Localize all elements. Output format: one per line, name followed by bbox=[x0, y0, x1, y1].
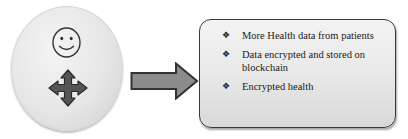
list-item: ❖ Data encrypted and stored on blockchai… bbox=[222, 48, 387, 74]
list-item: ❖ More Health data from patients bbox=[222, 29, 387, 42]
diamond-bullet-icon: ❖ bbox=[222, 29, 242, 42]
bullet-text: Encrypted health bbox=[242, 80, 387, 93]
bullet-text: More Health data from patients bbox=[242, 29, 387, 42]
list-item: ❖ Encrypted health bbox=[222, 80, 387, 93]
bullet-list: ❖ More Health data from patients ❖ Data … bbox=[222, 29, 387, 99]
right-block-arrow-connector bbox=[130, 62, 200, 100]
four-way-move-arrow-icon bbox=[47, 69, 89, 107]
smiley-face-icon bbox=[51, 26, 82, 59]
target-rounded-box-node: ❖ More Health data from patients ❖ Data … bbox=[199, 19, 396, 128]
diamond-bullet-icon: ❖ bbox=[222, 48, 242, 61]
bullet-text: Data encrypted and stored on blockchain bbox=[242, 48, 387, 74]
diamond-bullet-icon: ❖ bbox=[222, 80, 242, 93]
